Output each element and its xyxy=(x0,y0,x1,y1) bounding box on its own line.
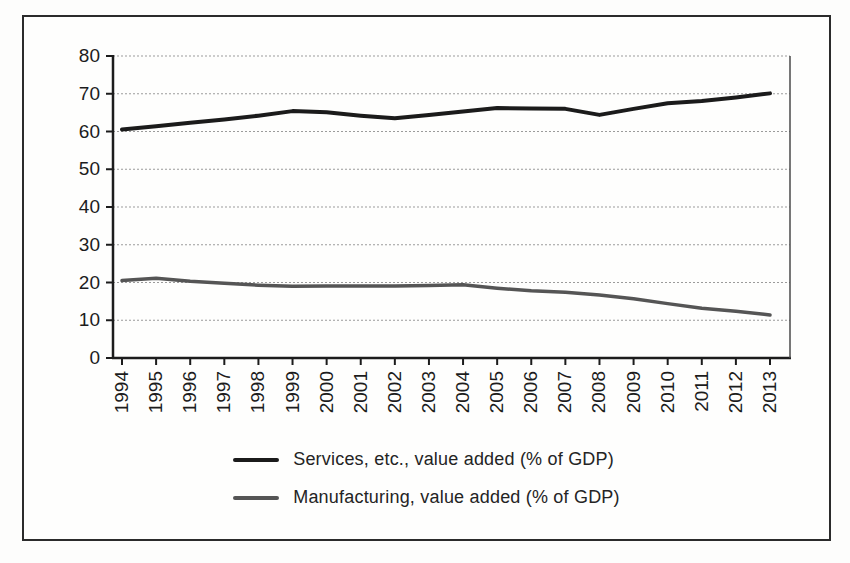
x-tick-label: 2001 xyxy=(350,371,371,413)
y-tick-label: 40 xyxy=(79,196,100,217)
y-tick-label: 80 xyxy=(79,45,100,66)
x-tick-label: 2002 xyxy=(384,371,405,413)
y-tick-label: 30 xyxy=(79,234,100,255)
x-tick-label: 1994 xyxy=(111,371,132,414)
x-tick-label: 1996 xyxy=(179,371,200,413)
x-tick-label: 2010 xyxy=(657,371,678,413)
legend-item-services: Services, etc., value added (% of GDP) xyxy=(233,449,614,470)
figure-frame: 0102030405060708019941995199619971998199… xyxy=(22,15,831,541)
y-tick-label: 60 xyxy=(79,121,100,142)
y-tick-label: 70 xyxy=(79,83,100,104)
x-axis-labels: 1994199519961997199819992000200120022003… xyxy=(111,371,780,414)
x-tick-label: 2003 xyxy=(418,371,439,413)
line-chart: 0102030405060708019941995199619971998199… xyxy=(24,17,829,447)
x-tick-label: 2011 xyxy=(691,371,712,412)
x-tick-label: 2006 xyxy=(520,371,541,413)
legend-label-manufacturing: Manufacturing, value added (% of GDP) xyxy=(293,487,620,508)
x-tick-label: 1995 xyxy=(145,371,166,413)
y-tick-label: 20 xyxy=(79,272,100,293)
manufacturing-line-swatch xyxy=(233,496,279,500)
y-axis-labels: 01020304050607080 xyxy=(79,45,100,368)
services-line xyxy=(122,93,770,129)
x-tick-label: 2005 xyxy=(486,371,507,413)
y-tick-label: 50 xyxy=(79,158,100,179)
x-tick-label: 2004 xyxy=(452,371,473,414)
y-tick-label: 0 xyxy=(89,347,100,368)
legend-label-services: Services, etc., value added (% of GDP) xyxy=(293,449,614,470)
x-tick-label: 2007 xyxy=(554,371,575,413)
manufacturing-line xyxy=(122,278,770,315)
x-tick-label: 2000 xyxy=(316,371,337,413)
chart-legend: Services, etc., value added (% of GDP) M… xyxy=(233,449,620,508)
x-tick-label: 2012 xyxy=(725,371,746,413)
x-tick-label: 2013 xyxy=(759,371,780,413)
x-tick-label: 1997 xyxy=(213,371,234,413)
y-tick-label: 10 xyxy=(79,309,100,330)
services-line-swatch xyxy=(233,458,279,462)
legend-item-manufacturing: Manufacturing, value added (% of GDP) xyxy=(233,487,620,508)
x-tick-label: 2009 xyxy=(623,371,644,413)
x-tick-label: 1999 xyxy=(282,371,303,413)
x-tick-label: 2008 xyxy=(588,371,609,413)
x-tick-label: 1998 xyxy=(247,371,268,413)
